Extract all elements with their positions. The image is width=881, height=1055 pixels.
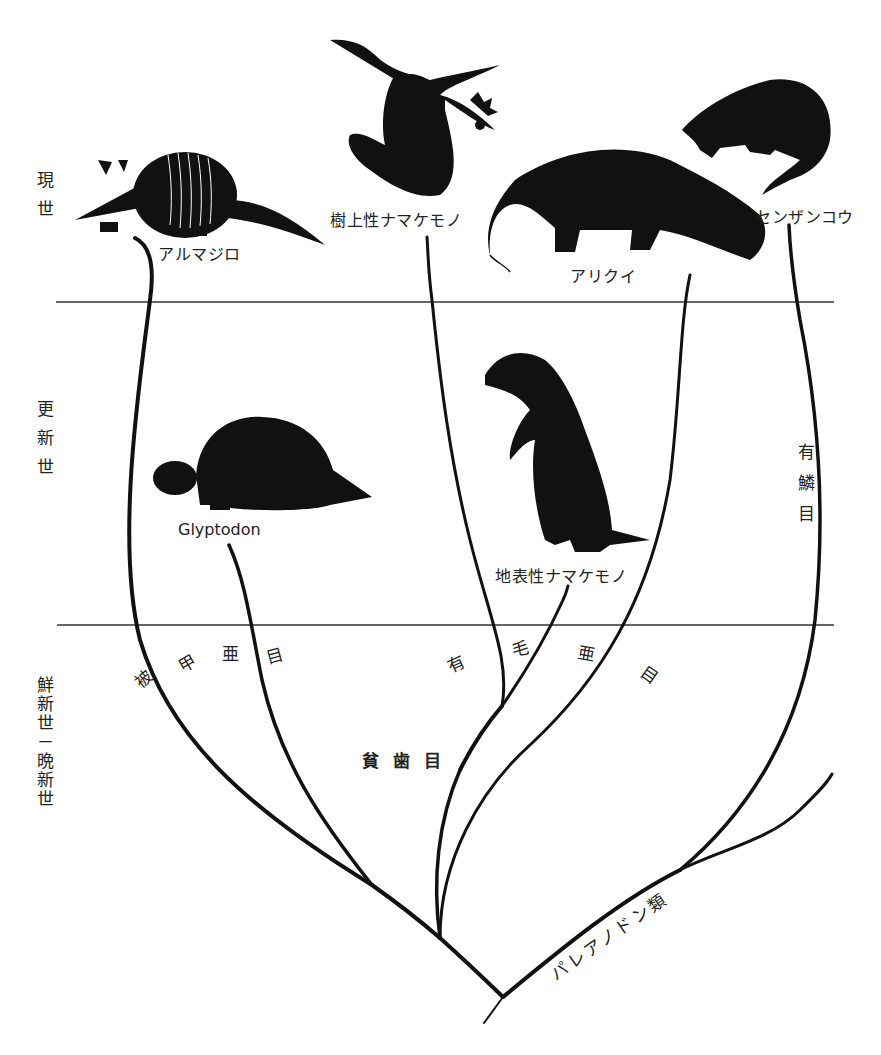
label-armadillo: アルマジロ (158, 241, 241, 265)
era-label-pliocene-miocene: 鮮新世－晩新世 (32, 676, 57, 809)
label-cingulata-3: 亜 (222, 640, 239, 665)
branch-anteater (440, 275, 690, 938)
label-anteater: アリクイ (570, 263, 636, 287)
label-glyptodon: Glyptodon (178, 520, 261, 539)
branch-armadillo (129, 238, 372, 885)
label-tree-sloth: 樹上性ナマケモノ (330, 207, 462, 231)
label-ground-sloth: 地表性ナマケモノ (495, 563, 627, 587)
era-label-pleistocene: 更新世 (32, 400, 57, 487)
branch-cingulata-trunk (372, 885, 440, 938)
branch-palaeanodont-extinct (680, 774, 832, 870)
branch-sloths (460, 706, 502, 770)
tree-sloth-icon (330, 40, 500, 196)
ground-sloth-icon (485, 353, 650, 552)
anteater-icon (488, 150, 765, 272)
era-label-recent: 現世 (32, 171, 57, 229)
phylogeny-diagram (0, 0, 881, 1055)
branch-root (484, 997, 503, 1023)
branch-xenarthra-trunk (440, 938, 503, 997)
branch-tree-sloth (427, 237, 504, 706)
branch-glyptodon (229, 545, 372, 885)
glyptodon-icon (153, 417, 372, 510)
branch-pangolin (680, 225, 820, 870)
pangolin-icon (682, 79, 831, 195)
label-pholidota: 有鱗目 (793, 443, 818, 536)
branch-lines (129, 225, 832, 1023)
label-pangolin: センザンコウ (755, 204, 853, 228)
label-xenarthra: 貧 歯 目 (362, 747, 445, 772)
armadillo-icon (75, 152, 325, 245)
